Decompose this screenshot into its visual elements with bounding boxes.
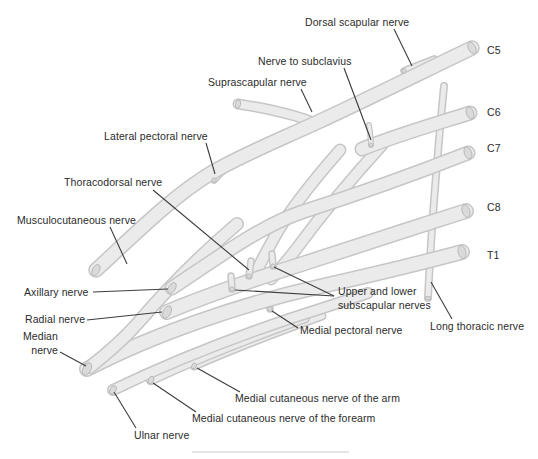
label-nerve-to-subclavius: Nerve to subclavius (258, 55, 352, 69)
brachial-plexus-figure: Dorsal scapular nerve Nerve to subclaviu… (0, 0, 538, 459)
nerve-tube-c6-root (362, 113, 470, 149)
label-musculocutaneous-nerve: Musculocutaneous nerve (17, 214, 136, 228)
label-root-t1: T1 (487, 249, 499, 263)
label-axillary-nerve: Axillary nerve (24, 286, 88, 300)
label-dorsal-scapular-nerve: Dorsal scapular nerve (305, 16, 409, 30)
brachial-plexus-illustration (0, 0, 538, 459)
label-root-c7: C7 (487, 142, 501, 156)
label-root-c6: C6 (487, 106, 501, 120)
label-medial-cutaneous-nerve-arm: Medial cutaneous nerve of the arm (235, 392, 400, 406)
label-root-c8: C8 (487, 201, 501, 215)
label-thoracodorsal-nerve: Thoracodorsal nerve (64, 176, 162, 190)
label-suprascapular-nerve: Suprascapular nerve (208, 76, 307, 90)
label-lateral-pectoral-nerve: Lateral pectoral nerve (104, 130, 208, 144)
label-ulnar-nerve: Ulnar nerve (134, 429, 189, 443)
label-radial-nerve: Radial nerve (25, 313, 85, 327)
label-median-nerve: Median nerve (12, 330, 58, 357)
label-medial-pectoral-nerve: Medial pectoral nerve (300, 324, 403, 338)
label-root-c5: C5 (487, 44, 501, 58)
label-medial-cutaneous-nerve-forearm: Medial cutaneous nerve of the forearm (192, 412, 375, 426)
label-long-thoracic-nerve: Long thoracic nerve (430, 320, 524, 334)
label-subscapular-nerves: Upper and lower subscapular nerves (338, 285, 431, 312)
